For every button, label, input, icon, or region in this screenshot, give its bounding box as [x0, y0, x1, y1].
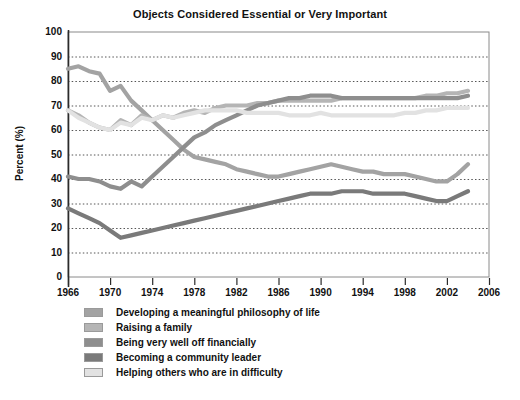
y-tick-label: 10 [26, 247, 62, 258]
x-tick-label: 1970 [87, 287, 133, 298]
y-tick-label: 30 [26, 198, 62, 209]
y-tick-label: 80 [26, 75, 62, 86]
legend-item-label: Becoming a community leader [116, 352, 261, 363]
x-tick-label: 1978 [171, 287, 217, 298]
y-tick-label: 100 [26, 26, 62, 37]
y-tick-label: 90 [26, 51, 62, 62]
chart-container: Objects Considered Essential or Very Imp… [0, 0, 520, 400]
legend-item-label: Raising a family [116, 322, 192, 333]
legend-swatch-icon [84, 308, 103, 317]
x-tick-label: 1986 [256, 287, 302, 298]
x-tick-label: 1994 [340, 287, 386, 298]
x-tick-label: 1998 [382, 287, 428, 298]
x-tick-label: 1990 [298, 287, 344, 298]
y-tick-label: 20 [26, 222, 62, 233]
y-tick-label: 40 [26, 173, 62, 184]
legend-item: Raising a family [84, 320, 320, 335]
legend-item-label: Helping others who are in difficulty [116, 367, 283, 378]
y-tick-label: 50 [26, 149, 62, 160]
y-tick-label: 60 [26, 124, 62, 135]
y-tick-label: 0 [26, 271, 62, 282]
x-tick-label: 1966 [45, 287, 91, 298]
legend-item: Developing a meaningful philosophy of li… [84, 305, 320, 320]
legend-item: Becoming a community leader [84, 350, 320, 365]
legend-item-label: Being very well off financially [116, 337, 256, 348]
x-tick-label: 2006 [466, 287, 512, 298]
x-tick-label: 1974 [129, 287, 175, 298]
legend-item: Helping others who are in difficulty [84, 365, 320, 380]
legend-swatch-icon [84, 353, 103, 362]
legend-swatch-icon [84, 368, 103, 377]
x-tick-label: 2002 [424, 287, 470, 298]
x-tick-label: 1982 [213, 287, 259, 298]
y-tick-label: 70 [26, 100, 62, 111]
legend-swatch-icon [84, 323, 103, 332]
legend-item-label: Developing a meaningful philosophy of li… [116, 307, 320, 318]
legend-swatch-icon [84, 338, 103, 347]
legend-item: Being very well off financially [84, 335, 320, 350]
chart-legend: Developing a meaningful philosophy of li… [84, 305, 320, 380]
